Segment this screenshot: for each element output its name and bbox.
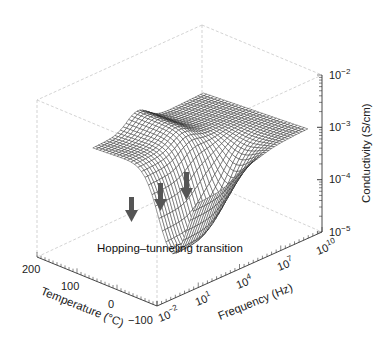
conductivity-surface <box>93 93 308 254</box>
svg-text:0: 0 <box>108 298 114 310</box>
y-axis-title: Frequency (Hz) <box>216 281 294 322</box>
svg-text:10−3: 10−3 <box>329 119 351 133</box>
svg-text:101: 101 <box>193 288 214 307</box>
svg-text:107: 107 <box>275 253 296 272</box>
svg-text:1010: 1010 <box>314 236 339 257</box>
surface-chart: 10−2 10−3 10−4 10−5 Conductivity (S/cm) … <box>0 0 386 351</box>
svg-text:10−4: 10−4 <box>329 171 351 185</box>
annotation-label: Hopping–tunneling transition <box>97 242 243 254</box>
svg-text:10−2: 10−2 <box>156 303 182 324</box>
svg-text:104: 104 <box>234 271 255 290</box>
svg-text:200: 200 <box>22 263 40 275</box>
arrow-down-icon <box>125 197 138 222</box>
svg-text:−100: −100 <box>128 314 153 326</box>
z-axis-labels: 10−2 10−3 10−4 10−5 Conductivity (S/cm) <box>329 67 372 238</box>
z-axis-title: Conductivity (S/cm) <box>360 103 372 203</box>
svg-text:100: 100 <box>61 280 79 292</box>
svg-text:10−2: 10−2 <box>329 67 351 81</box>
